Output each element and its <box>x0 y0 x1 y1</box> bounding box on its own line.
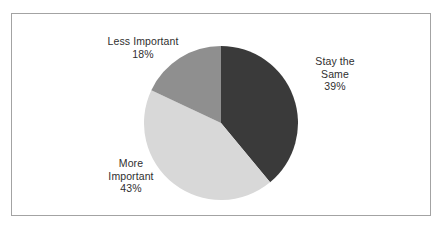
pie-label-more-important-name-line1: More <box>85 157 177 170</box>
pie-label-less-important: Less Important 18% <box>97 35 189 60</box>
plot-area: Less Important 18% Stay the Same 39% Mor… <box>0 0 442 231</box>
pie-label-less-important-value: 18% <box>97 48 189 61</box>
pie-label-more-important-value: 43% <box>85 182 177 195</box>
pie-label-more-important: More Important 43% <box>85 157 177 195</box>
pie-label-stay-the-same-name-line1: Stay the <box>300 55 370 68</box>
pie-label-stay-the-same: Stay the Same 39% <box>300 55 370 93</box>
pie-chart-figure: Less Important 18% Stay the Same 39% Mor… <box>0 0 442 231</box>
pie-label-stay-the-same-value: 39% <box>300 80 370 93</box>
pie-label-less-important-name: Less Important <box>97 35 189 48</box>
pie-label-stay-the-same-name-line2: Same <box>300 68 370 81</box>
pie-label-more-important-name-line2: Important <box>85 170 177 183</box>
